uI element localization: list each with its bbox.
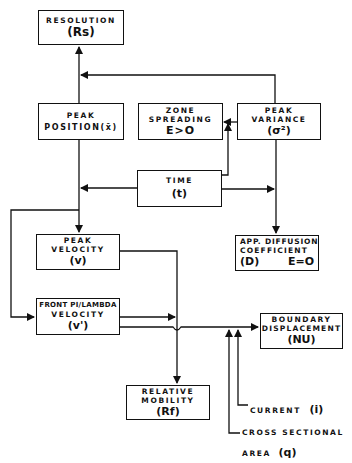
app-diffusion-title: APP. DIFFUSION [240, 237, 318, 246]
time-title: TIME [166, 176, 193, 185]
relative-mobility-line2: MOBILITY [141, 396, 194, 405]
boundary-displacement-line2: DISPLACEMENT [262, 324, 342, 333]
peak-velocity-symbol: (v) [69, 254, 86, 268]
zone-spreading-title: ZONE [166, 106, 196, 115]
cross-section-label: CROSS SECTIONAL AREA (q) [242, 428, 344, 460]
peak-variance-symbol: (σ²) [267, 124, 290, 138]
peak-variance-node: PEAK VARIANCE (σ²) [237, 103, 321, 140]
current-symbol: (i) [309, 403, 323, 416]
peak-position-node: PEAK POSITION(x̄) [38, 103, 124, 140]
time-symbol: (t) [172, 187, 187, 201]
peak-position-line2: POSITION(x̄) [44, 123, 117, 132]
front-velocity-symbol: (v') [68, 319, 89, 333]
cross-section-text: CROSS SECTIONAL [242, 428, 344, 437]
relative-mobility-node: RELATIVE MOBILITY (Rf) [126, 385, 210, 420]
peak-variance-line2: VARIANCE [251, 115, 306, 124]
boundary-displacement-symbol: (NU) [287, 333, 315, 347]
app-diffusion-line2: COEFFICIENT [240, 246, 308, 255]
cross-section-line2: AREA [242, 449, 271, 458]
resolution-title: RESOLUTION [46, 16, 116, 25]
zone-spreading-condition: E>O [166, 124, 195, 138]
peak-position-title: PEAK [67, 111, 96, 120]
zone-spreading-line2: SPREADING [149, 115, 212, 124]
front-velocity-node: FRONT PI/LAMBDA VELOCITY (v') [36, 298, 120, 335]
relative-mobility-symbol: (Rf) [156, 405, 179, 419]
zone-spreading-node: ZONE SPREADING E>O [138, 103, 223, 140]
cross-section-symbol: (q) [279, 446, 297, 459]
front-velocity-line2: VELOCITY [51, 310, 104, 319]
relative-mobility-title: RELATIVE [142, 387, 195, 396]
peak-velocity-title: PEAK [64, 236, 93, 245]
current-label: CURRENT (i) [250, 398, 323, 417]
boundary-displacement-title: BOUNDARY [271, 315, 331, 324]
resolution-node: RESOLUTION (Rs) [38, 10, 124, 45]
app-diffusion-condition: E=O [288, 255, 314, 269]
peak-velocity-node: PEAK VELOCITY (v) [36, 234, 120, 270]
app-diffusion-node: APP. DIFFUSION COEFFICIENT (D) E=O [235, 235, 319, 271]
time-node: TIME (t) [137, 170, 222, 207]
resolution-symbol: (Rs) [67, 25, 94, 39]
current-text: CURRENT [250, 406, 301, 415]
peak-variance-title: PEAK [265, 106, 294, 115]
boundary-displacement-node: BOUNDARY DISPLACEMENT (NU) [260, 313, 343, 349]
peak-velocity-line2: VELOCITY [51, 245, 104, 254]
app-diffusion-symbol: (D) [240, 255, 259, 269]
front-velocity-title: FRONT PI/LAMBDA [39, 301, 116, 310]
app-diffusion-footer: (D) E=O [240, 255, 314, 269]
